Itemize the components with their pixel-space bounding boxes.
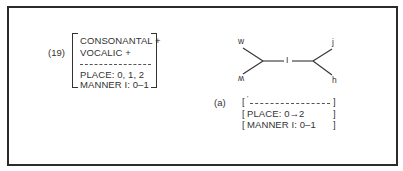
sub-row2-open-bracket: [ — [242, 108, 245, 119]
tree-diagram — [0, 0, 403, 171]
sub-row-manner: MANNER I: 0–1 — [247, 119, 316, 130]
tree-node-center: I — [286, 56, 288, 65]
sub-example-label: (a) — [214, 97, 226, 108]
tree-node-j: j — [332, 38, 334, 47]
sub-row1-open-bracket: [ — [242, 96, 245, 107]
sub-row1-close-bracket: ] — [333, 96, 336, 107]
tree-node-h: h — [332, 76, 337, 85]
sub-dashed-divider — [250, 103, 330, 104]
sub-row3-close-bracket: ] — [333, 119, 336, 130]
tree-node-inverted-w: ʍ — [238, 74, 244, 83]
tree-node-w: w — [238, 37, 244, 46]
sub-row1-tick: ' — [247, 93, 248, 104]
sub-row2-close-bracket: ] — [333, 108, 336, 119]
sub-row-place: PLACE: 0→2 — [247, 108, 305, 119]
sub-row3-open-bracket: [ — [242, 119, 245, 130]
